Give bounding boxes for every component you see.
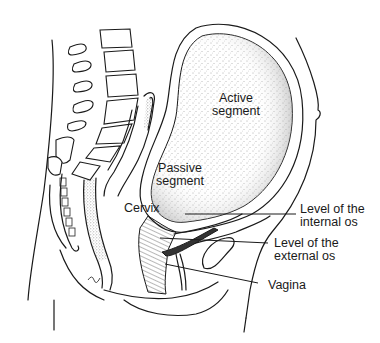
label-external-os: Level of the external os bbox=[274, 237, 339, 263]
label-passive-segment: Passive segment bbox=[156, 162, 204, 188]
anatomical-diagram: Active segment Passive segment Cervix Le… bbox=[0, 0, 380, 343]
label-cervix: Cervix bbox=[124, 202, 159, 215]
label-active-segment: Active segment bbox=[212, 92, 260, 118]
sacrum bbox=[60, 174, 78, 251]
leader-vagina bbox=[165, 264, 258, 283]
pubic-symphysis bbox=[203, 238, 235, 269]
label-internal-os: Level of the internal os bbox=[300, 203, 365, 229]
spinous-processes bbox=[48, 44, 93, 175]
label-vagina: Vagina bbox=[268, 279, 306, 292]
coccyx-segments bbox=[60, 178, 75, 236]
